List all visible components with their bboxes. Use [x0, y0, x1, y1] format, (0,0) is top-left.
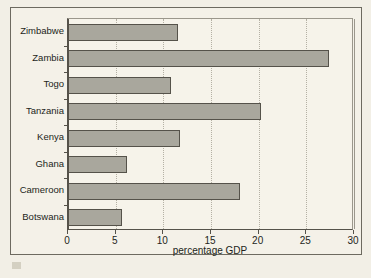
y-tick — [64, 205, 69, 206]
x-tick-20 — [258, 230, 259, 234]
chart-page: ZimbabweZambiaTogoTanzaniaKenyaGhanaCame… — [0, 0, 371, 278]
bar-row — [68, 24, 354, 41]
gridline-30 — [354, 19, 355, 229]
x-tick-25 — [305, 230, 306, 234]
bar-ghana — [68, 156, 127, 173]
scan-artifact-speck — [12, 262, 21, 269]
y-tick — [64, 46, 69, 47]
y-tick — [64, 72, 69, 73]
category-label-kenya: Kenya — [0, 131, 64, 142]
bar-botswana — [68, 209, 122, 226]
bar-row — [68, 156, 354, 173]
y-tick — [64, 125, 69, 126]
y-tick — [64, 178, 69, 179]
bar-kenya — [68, 130, 180, 147]
x-tick-15 — [210, 230, 211, 234]
category-label-cameroon: Cameroon — [0, 184, 64, 195]
bar-zimbabwe — [68, 24, 178, 41]
category-label-zimbabwe: Zimbabwe — [0, 25, 64, 36]
bar-row — [68, 183, 354, 200]
bar-row — [68, 130, 354, 147]
x-tick-10 — [162, 230, 163, 234]
bar-row — [68, 103, 354, 120]
bar-cameroon — [68, 183, 240, 200]
bar-togo — [68, 77, 171, 94]
y-tick — [64, 152, 69, 153]
bar-tanzania — [68, 103, 261, 120]
bar-zambia — [68, 50, 329, 67]
x-axis-title: percentage GDP — [67, 245, 353, 256]
x-axis: 051015202530 — [67, 230, 353, 246]
y-tick — [64, 99, 69, 100]
category-label-zambia: Zambia — [0, 52, 64, 63]
category-label-botswana: Botswana — [0, 211, 64, 222]
bar-row — [68, 50, 354, 67]
x-tick-0 — [67, 230, 68, 234]
category-label-tanzania: Tanzania — [0, 105, 64, 116]
category-label-ghana: Ghana — [0, 158, 64, 169]
plot-area — [67, 18, 353, 230]
category-label-togo: Togo — [0, 78, 64, 89]
bar-row — [68, 209, 354, 226]
bar-row — [68, 77, 354, 94]
x-tick-30 — [353, 230, 354, 234]
x-tick-5 — [115, 230, 116, 234]
